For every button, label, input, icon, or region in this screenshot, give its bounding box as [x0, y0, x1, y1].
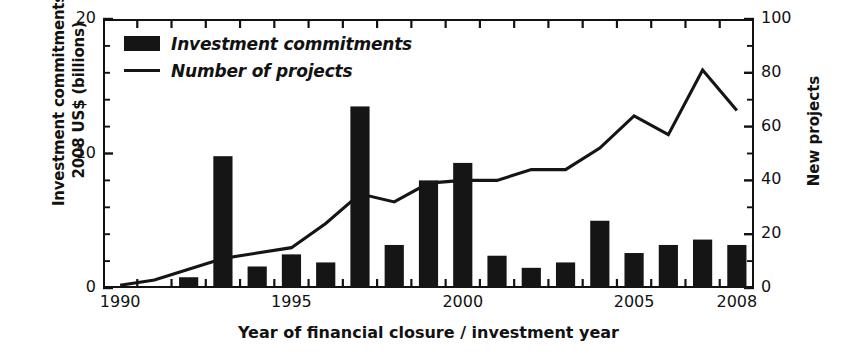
- chart-figure: Investment commitments 2008 US$ (billion…: [0, 0, 843, 364]
- y-axis-right-tick-label: 40: [761, 169, 805, 188]
- x-axis-tick-label: 1995: [255, 292, 327, 311]
- y-axis-right-title-text: New projects: [805, 76, 823, 187]
- line-swatch-icon: [124, 69, 160, 72]
- y-axis-left-title: Investment commitments 2008 US$ (billion…: [49, 0, 93, 215]
- x-axis-tick-label: 1990: [84, 292, 156, 311]
- y-axis-left-title-text: Investment commitments 2008 US$ (billion…: [50, 0, 88, 206]
- legend-item-investment-commitments: Investment commitments: [124, 30, 424, 57]
- y-axis-right-tick-label: 60: [761, 116, 805, 135]
- y-axis-left-tick-label: 20: [40, 8, 96, 27]
- x-axis-title: Year of financial closure / investment y…: [103, 323, 754, 342]
- y-axis-left-tick-label: 10: [40, 143, 96, 162]
- x-axis-tick-label: 2005: [598, 292, 670, 311]
- x-axis-title-text: Year of financial closure / investment y…: [238, 323, 619, 342]
- legend-label: Investment commitments: [171, 34, 412, 54]
- bar-swatch-icon: [124, 36, 160, 51]
- x-axis-tick-label: 2000: [427, 292, 499, 311]
- chart-legend: Investment commitments Number of project…: [124, 30, 424, 84]
- legend-item-number-of-projects: Number of projects: [124, 57, 424, 84]
- y-axis-right-tick-label: 20: [761, 223, 805, 242]
- y-axis-right-tick-label: 80: [761, 62, 805, 81]
- y-axis-right-title: New projects: [805, 31, 827, 231]
- x-axis-tick-label: 2008: [701, 292, 773, 311]
- y-axis-right-tick-label: 100: [761, 8, 805, 27]
- legend-label: Number of projects: [171, 61, 352, 81]
